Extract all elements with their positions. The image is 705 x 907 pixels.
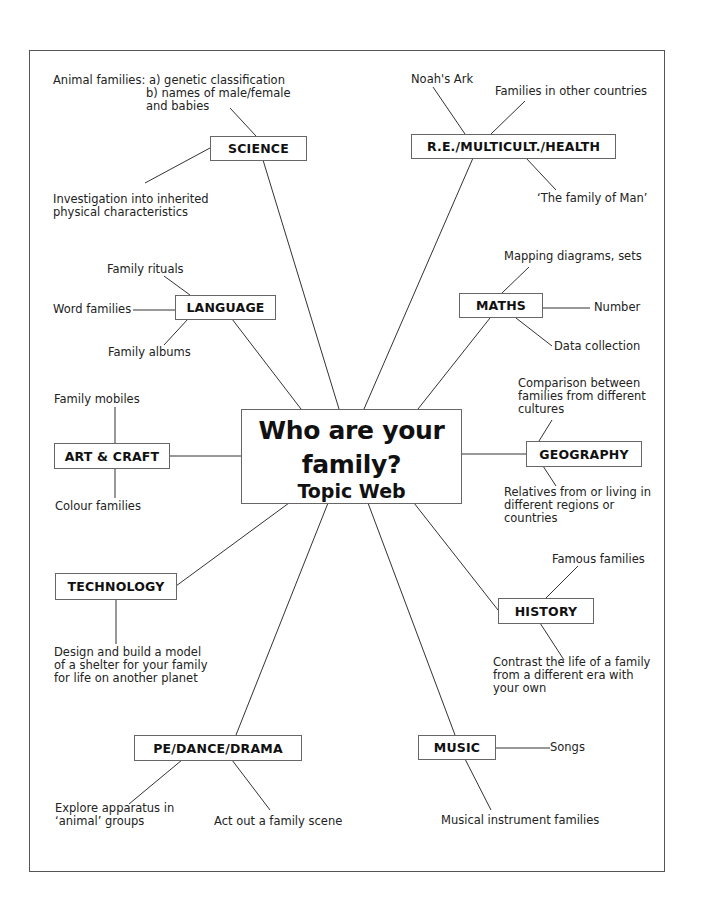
subject-art-craft-box: ART & CRAFT — [54, 443, 170, 469]
re-note-family-of-man: ‘The family of Man’ — [537, 192, 648, 206]
maths-note-data-collection: Data collection — [554, 340, 640, 354]
art-note-family-mobiles: Family mobiles — [54, 393, 140, 407]
geography-note-comparison-line3: cultures — [518, 403, 564, 417]
music-note-songs: Songs — [550, 741, 585, 755]
subject-history-box: HISTORY — [498, 598, 594, 624]
music-note-instrument-families: Musical instrument families — [441, 814, 599, 828]
re-note-families-other-countries: Families in other countries — [495, 85, 647, 99]
maths-note-number: Number — [594, 301, 640, 315]
subject-geography-label: GEOGRAPHY — [539, 447, 628, 462]
subject-pe-dance-drama-label: PE/DANCE/DRAMA — [153, 741, 283, 756]
art-note-colour-families: Colour families — [55, 500, 141, 514]
central-title-line1: Who are your — [242, 418, 461, 444]
subject-re-box: R.E./MULTICULT./HEALTH — [411, 134, 616, 159]
science-note-babies: and babies — [146, 100, 209, 114]
maths-note-mapping-diagrams: Mapping diagrams, sets — [504, 250, 642, 264]
subject-science-label: SCIENCE — [228, 141, 289, 156]
subject-re-label: R.E./MULTICULT./HEALTH — [427, 139, 600, 154]
history-note-famous-families: Famous families — [552, 553, 645, 567]
language-note-word-families: Word families — [53, 303, 131, 317]
pe-note-act-out: Act out a family scene — [214, 815, 342, 829]
subject-science-box: SCIENCE — [210, 136, 307, 161]
subject-maths-box: MATHS — [459, 293, 543, 318]
pe-note-explore-line2: ‘animal’ groups — [55, 815, 144, 829]
language-note-family-albums: Family albums — [108, 346, 191, 360]
technology-note-line3: for life on another planet — [54, 672, 198, 686]
subject-language-label: LANGUAGE — [186, 300, 264, 315]
central-subtitle: Topic Web — [242, 480, 461, 502]
subject-technology-box: TECHNOLOGY — [55, 573, 177, 600]
subject-language-box: LANGUAGE — [175, 295, 276, 320]
central-title-line2: family? — [242, 452, 461, 478]
subject-art-craft-label: ART & CRAFT — [65, 449, 160, 464]
subject-history-label: HISTORY — [515, 604, 578, 619]
science-note-investigation-line2: physical characteristics — [53, 206, 188, 220]
subject-pe-dance-drama-box: PE/DANCE/DRAMA — [134, 735, 302, 761]
subject-technology-label: TECHNOLOGY — [68, 579, 165, 594]
re-note-noahs-ark: Noah's Ark — [411, 73, 473, 87]
geography-note-relatives-line3: countries — [504, 512, 557, 526]
central-topic-box: Who are your family? Topic Web — [241, 409, 462, 504]
subject-music-box: MUSIC — [418, 735, 496, 760]
subject-geography-box: GEOGRAPHY — [526, 441, 642, 467]
subject-maths-label: MATHS — [476, 298, 526, 313]
subject-music-label: MUSIC — [434, 740, 480, 755]
language-note-family-rituals: Family rituals — [107, 263, 184, 277]
history-note-contrast-line3: your own — [493, 682, 546, 696]
